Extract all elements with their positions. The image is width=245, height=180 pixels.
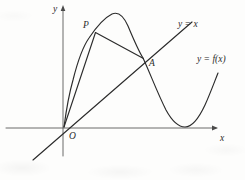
function-curve-y-equals-f-of-x: [64, 13, 218, 127]
y-axis-arrowhead: [61, 5, 66, 11]
point-a-label: A: [148, 58, 155, 68]
function-curve-label: y = f(x): [196, 54, 226, 65]
identity-line-y-equals-x: [33, 22, 192, 160]
origin-label: O: [69, 131, 76, 141]
x-axis-label: x: [219, 133, 225, 143]
identity-line-label: y = x: [177, 19, 198, 29]
x-axis-arrowhead: [212, 126, 218, 131]
point-p-label: P: [82, 20, 89, 30]
figure-container: y x O P A y = x y = f(x): [0, 0, 245, 180]
chord-origin-to-p: [64, 33, 96, 128]
y-axis-label: y: [52, 4, 58, 14]
geometry-figure: y x O P A y = x y = f(x): [0, 0, 245, 180]
